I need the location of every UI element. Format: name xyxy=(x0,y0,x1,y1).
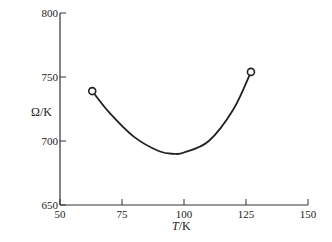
y-axis-label: Ω/K xyxy=(31,105,52,119)
y-tick-label: 700 xyxy=(42,135,59,147)
x-tick-label: 75 xyxy=(117,208,129,220)
x-tick-label: 150 xyxy=(300,208,317,220)
open-circle-marker xyxy=(247,68,254,75)
x-tick-label: 50 xyxy=(55,208,67,220)
x-axis-label: T/K xyxy=(172,219,191,233)
open-circle-marker xyxy=(89,88,96,95)
endpoint-markers xyxy=(89,68,255,94)
y-tick-label: 750 xyxy=(42,71,59,83)
x-tick-label: 125 xyxy=(238,208,255,220)
chart: 650700750800 5075100125150 Ω/K T/K xyxy=(0,0,332,242)
x-ticks: 5075100125150 xyxy=(55,199,317,220)
y-tick-label: 800 xyxy=(42,7,59,19)
data-curve xyxy=(92,72,251,154)
